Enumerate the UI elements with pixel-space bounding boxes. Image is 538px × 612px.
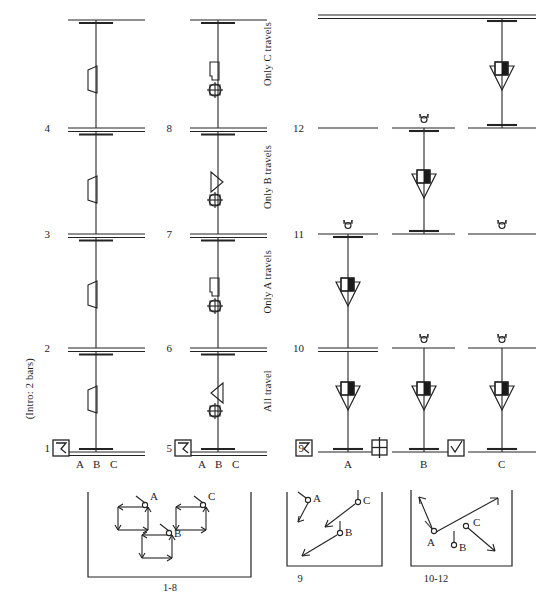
path-box-10-12 (411, 490, 512, 566)
bar-number-2: 2 (36, 342, 50, 354)
path-box-1-8 (88, 492, 251, 577)
path-dancer-label-b-box2: B (345, 526, 352, 538)
bar-number-7: 7 (158, 228, 172, 240)
part-label-b-1: B (93, 458, 100, 470)
path-box-caption-10-12: 10-12 (414, 573, 458, 584)
bar-number-5: 5 (158, 442, 172, 454)
path-dancer-label-b-box1: B (174, 527, 181, 539)
bar-number-4: 4 (36, 122, 50, 134)
travel-label-all: All travel (262, 370, 273, 412)
bar-number-3: 3 (36, 228, 50, 240)
bar-number-10: 10 (286, 342, 304, 354)
part-label-c-2: C (232, 458, 239, 470)
travel-label-only-a: Only A travels (262, 250, 273, 313)
path-dancer-label-c-box2: C (363, 494, 370, 506)
bar-number-11: 11 (286, 228, 304, 240)
path-dancer-label-c-box1: C (208, 490, 215, 502)
path-dancer-label-a-box3: A (427, 536, 435, 548)
bar-number-12: 12 (286, 122, 304, 134)
part-label-c-1: C (110, 458, 117, 470)
path-dancer-label-a-box1: A (150, 490, 158, 502)
bar-number-9: 9 (286, 442, 304, 454)
travel-label-only-c: Only C travels (262, 22, 273, 86)
path-box-caption-9: 9 (290, 573, 310, 584)
bar-number-1: 1 (36, 442, 50, 454)
intro-label: (Intro: 2 bars) (24, 358, 35, 419)
part-label-a-1: A (76, 458, 84, 470)
notation-figure: 4 3 2 1 (Intro: 2 bars) A B C 8 7 6 5 A … (0, 0, 538, 612)
path-dancer-label-c-box3: C (473, 516, 480, 528)
column-label-b: B (420, 458, 427, 470)
travel-label-only-b: Only B travels (262, 145, 273, 209)
bar-number-6: 6 (158, 342, 172, 354)
path-dancer-label-b-box3: B (459, 541, 466, 553)
breath-mark-icon (344, 114, 506, 343)
path-box-caption-1-8: 1-8 (148, 582, 192, 593)
path-dancer-label-a-box2: A (313, 492, 321, 504)
cue-box-group (53, 437, 464, 458)
column-label-c: C (498, 458, 505, 470)
column-label-a: A (344, 458, 352, 470)
part-label-a-2: A (198, 458, 206, 470)
part-label-b-2: B (215, 458, 222, 470)
bar-number-8: 8 (158, 122, 172, 134)
